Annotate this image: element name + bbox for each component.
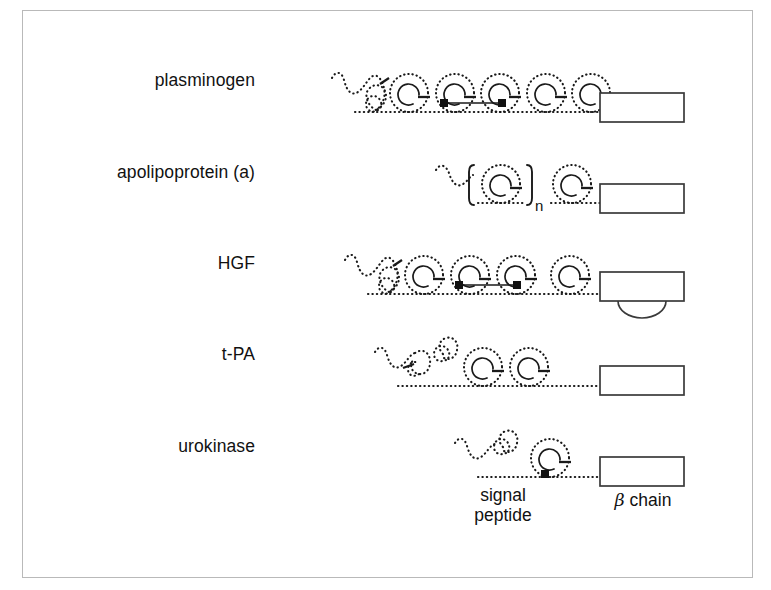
kringle-domain [531, 439, 571, 477]
caption-beta-chain: β chain [588, 490, 698, 510]
signal-peptide-urokinase [455, 439, 495, 459]
caption-beta-chain-text: chain [625, 490, 672, 510]
beta-chain-box-urokinase [600, 457, 684, 486]
diagram-stage: plasminogen apolipoprotein (a) HGF t-PA … [0, 0, 771, 590]
beta-symbol: β [615, 490, 625, 510]
caption-signal-line2: peptide [474, 505, 531, 525]
caption-signal-peptide: signal peptide [448, 485, 558, 525]
caption-signal-line1: signal [480, 485, 526, 505]
chain-junction-node-urokinase [541, 470, 549, 478]
egf-domain-urokinase [494, 431, 517, 455]
